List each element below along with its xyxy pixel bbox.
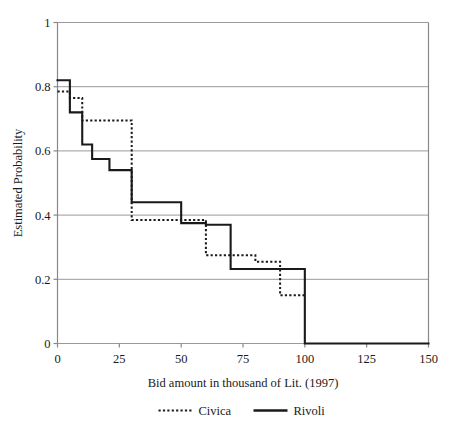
x-tick-label: 50 (175, 352, 188, 366)
legend-label-civica: Civica (199, 404, 232, 418)
x-tick-label: 150 (419, 352, 438, 366)
y-tick-label: 0.8 (35, 80, 51, 94)
x-tick-label: 100 (295, 352, 314, 366)
x-tick-label: 75 (237, 352, 250, 366)
y-axis-title: Estimated Probability (11, 128, 25, 237)
y-tick-label: 0.6 (35, 144, 51, 158)
x-tick-label: 0 (54, 352, 60, 366)
x-tick-label: 25 (113, 352, 126, 366)
legend-label-rivoli: Rivoli (294, 404, 326, 418)
y-tick-label: 0.4 (35, 209, 51, 223)
chart-figure: 00.20.40.60.81 0255075100125150 Bid amou… (0, 0, 456, 432)
x-tick-label: 125 (357, 352, 376, 366)
x-axis-title: Bid amount in thousand of Lit. (1997) (148, 376, 339, 390)
survival-function-chart: 00.20.40.60.81 0255075100125150 Bid amou… (0, 0, 456, 432)
y-tick-label: 1 (44, 16, 50, 30)
y-tick-label: 0.2 (35, 273, 51, 287)
chart-background (0, 0, 456, 432)
y-tick-label: 0 (44, 337, 50, 351)
